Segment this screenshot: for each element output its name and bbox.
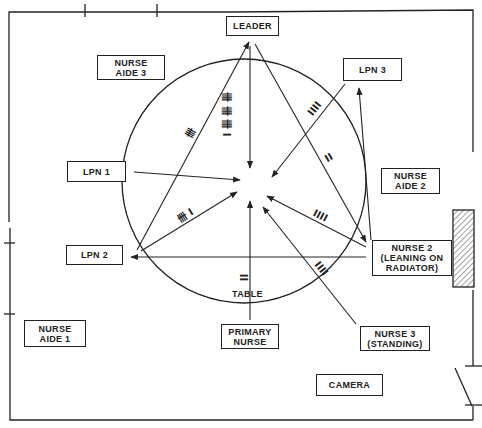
nurse-2-line2: (LEANING ON [381,253,444,263]
tally-primary-nurse-to-center: II [238,274,249,281]
participant-nurse-aide-1: NURSE AIDE 1 [24,320,86,347]
participant-nurse-3: NURSE 3 (STANDING) [360,326,430,351]
primary-nurse-line1: PRIMARY [228,327,271,337]
nurse-aide-3-line1: NURSE [114,58,147,68]
participant-lpn-1: LPN 1 [67,161,126,182]
camera: CAMERA [316,374,383,396]
nurse-aide-1-line2: AIDE 1 [40,334,71,344]
participant-lpn-3: LPN 3 [343,58,402,81]
radiator [453,210,474,287]
lpn-2-label: LPN 2 [81,250,108,260]
lpn-1-label: LPN 1 [83,167,110,177]
participant-nurse-aide-3: NURSE AIDE 3 [97,55,165,80]
diagram-canvas [0,0,482,428]
table-label: TABLE [232,289,263,299]
nurse-2-line3: RADIATOR) [386,263,438,273]
participant-lpn-2: LPN 2 [66,245,123,265]
nurse-aide-3-line2: AIDE 3 [116,68,147,78]
participant-leader: LEADER [226,16,279,36]
participant-nurse-aide-2: NURSE AIDE 2 [381,168,440,194]
room-walls [4,4,482,420]
tally-leader-to-center: 卌 卌 卌 I [220,92,235,136]
primary-nurse-line2: NURSE [233,337,266,347]
table-circle [122,59,366,303]
participant-nurse-2: NURSE 2 (LEANING ON RADIATOR) [372,240,452,276]
nurse-aide-1-line1: NURSE [38,324,71,334]
camera-label: CAMERA [329,380,370,390]
lpn-3-label: LPN 3 [359,65,386,75]
nurse-aide-2-line1: NURSE [394,171,427,181]
leader-label: LEADER [233,21,272,31]
nurse-2-line1: NURSE 2 [391,243,432,253]
participant-primary-nurse: PRIMARY NURSE [221,324,279,349]
nurse-aide-2-line2: AIDE 2 [395,181,426,191]
nurse-3-line1: NURSE 3 [374,329,415,339]
nurse-3-line2: (STANDING) [367,339,422,349]
